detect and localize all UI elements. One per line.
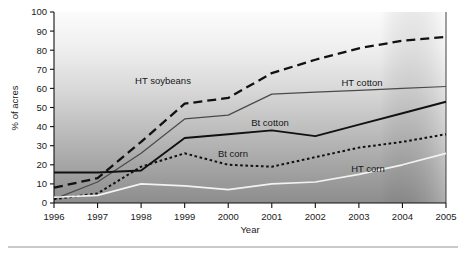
x-axis-title: Year: [240, 224, 259, 235]
x-tick-label: 1998: [131, 211, 152, 222]
annotation-ht-corn: HT corn: [351, 163, 385, 174]
x-tick-label: 2001: [261, 211, 282, 222]
x-axis: 1996199719981999200020012002200320042005: [43, 203, 456, 222]
y-tick-label: 70: [36, 64, 47, 75]
x-tick-label: 2003: [348, 211, 369, 222]
y-tick-label: 30: [36, 140, 47, 151]
chart-figure: 0102030405060708090100 19961997199819992…: [0, 0, 465, 256]
y-tick-label: 40: [36, 121, 47, 132]
x-tick-label: 1996: [43, 211, 64, 222]
y-tick-label: 60: [36, 83, 47, 94]
annotation-bt-cotton: Bt cotton: [251, 117, 289, 128]
y-tick-label: 50: [36, 102, 47, 113]
annotation-ht-cotton: HT cotton: [341, 77, 382, 88]
x-tick-label: 1999: [174, 211, 195, 222]
y-tick-label: 20: [36, 159, 47, 170]
y-tick-label: 100: [31, 6, 47, 17]
x-tick-label: 1997: [87, 211, 108, 222]
x-tick-label: 2002: [305, 211, 326, 222]
y-axis-title: % of acres: [9, 85, 20, 130]
y-axis: 0102030405060708090100: [31, 6, 54, 208]
y-tick-label: 10: [36, 178, 47, 189]
x-tick-label: 2005: [435, 211, 456, 222]
annotation-ht-soybeans: HT soybeans: [135, 75, 191, 86]
x-tick-label: 2000: [218, 211, 239, 222]
x-tick-label: 2004: [392, 211, 413, 222]
annotation-bt-corn: Bt corn: [218, 148, 248, 159]
y-tick-label: 0: [42, 197, 47, 208]
percent-of-acres-line-chart: 0102030405060708090100 19961997199819992…: [0, 0, 465, 256]
y-tick-label: 80: [36, 45, 47, 56]
y-tick-label: 90: [36, 26, 47, 37]
